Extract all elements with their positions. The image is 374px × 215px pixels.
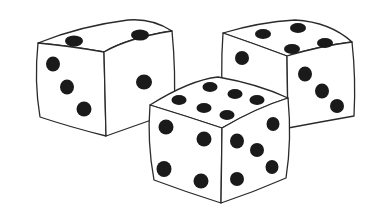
dice-illustration: Three dice illustration xyxy=(0,0,374,215)
front-die xyxy=(149,77,290,203)
